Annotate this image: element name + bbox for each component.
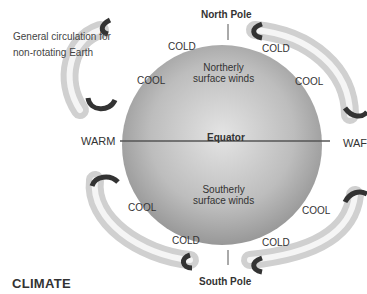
cold-label: COLD — [172, 235, 200, 246]
label-line: surface winds — [193, 195, 254, 206]
warm-label: WARM — [81, 136, 115, 147]
caption-line: non-rotating Earth — [13, 45, 111, 61]
section-title: CLIMATE — [12, 276, 71, 291]
north-pole-label: North Pole — [201, 9, 252, 20]
label-line: surface winds — [193, 73, 254, 84]
south-pole-label: South Pole — [199, 276, 251, 287]
cool-label: COOL — [137, 75, 165, 86]
cool-label: COOL — [295, 76, 323, 87]
cold-label: COLD — [262, 237, 290, 248]
southerly-winds-label: Southerly surface winds — [193, 184, 254, 206]
cool-label: COOL — [128, 202, 156, 213]
cold-label: COLD — [168, 41, 196, 52]
label-line: Southerly — [193, 184, 254, 195]
cool-label: COOL — [302, 205, 330, 216]
caption: General circulation for non-rotating Ear… — [13, 29, 111, 61]
equator-label: Equator — [207, 132, 245, 143]
northerly-winds-label: Northerly surface winds — [193, 62, 254, 84]
label-line: Northerly — [193, 62, 254, 73]
cold-label: COLD — [262, 43, 290, 54]
caption-line: General circulation for — [13, 29, 111, 45]
warm-label: WAF — [343, 138, 367, 149]
